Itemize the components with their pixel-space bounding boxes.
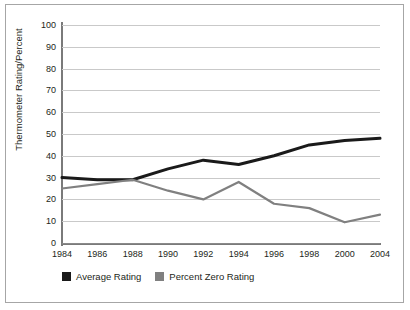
y-tick-label-50: 50 xyxy=(46,129,56,139)
legend-swatch-icon xyxy=(155,272,164,281)
gridline-0 xyxy=(62,243,380,244)
y-tick-label-0: 0 xyxy=(51,238,56,248)
legend-label: Average Rating xyxy=(76,271,141,282)
x-tick-label-1998: 1998 xyxy=(299,249,319,259)
plot-area xyxy=(62,25,380,243)
x-axis-tick-labels: 1984198619881990199219941996199820002004 xyxy=(62,249,380,265)
x-tick-label-1990: 1990 xyxy=(158,249,178,259)
series-lines xyxy=(62,25,380,243)
y-tick-label-20: 20 xyxy=(46,194,56,204)
x-tick-label-1992: 1992 xyxy=(193,249,213,259)
x-tick-label-2004: 2004 xyxy=(370,249,390,259)
y-axis-tick-labels: 0102030405060708090100 xyxy=(0,25,56,243)
y-tick-label-90: 90 xyxy=(46,42,56,52)
legend-label: Percent Zero Rating xyxy=(169,271,254,282)
x-tick-label-1996: 1996 xyxy=(264,249,284,259)
y-tick-label-80: 80 xyxy=(46,64,56,74)
y-tick-label-30: 30 xyxy=(46,173,56,183)
y-tick-label-60: 60 xyxy=(46,107,56,117)
series-line-percent-zero-rating xyxy=(62,180,380,223)
legend-item-percent-zero-rating[interactable]: Percent Zero Rating xyxy=(155,271,254,282)
chart-figure: Thermometer Rating/Percent 0102030405060… xyxy=(0,0,410,310)
series-line-average-rating xyxy=(62,138,380,179)
x-tick-label-1988: 1988 xyxy=(123,249,143,259)
y-tick-label-10: 10 xyxy=(46,216,56,226)
y-tick-label-40: 40 xyxy=(46,151,56,161)
x-tick-label-1994: 1994 xyxy=(229,249,249,259)
x-tick-label-1984: 1984 xyxy=(52,249,72,259)
chart-legend: Average RatingPercent Zero Rating xyxy=(62,271,254,282)
x-tick-label-2000: 2000 xyxy=(335,249,355,259)
y-tick-label-70: 70 xyxy=(46,85,56,95)
legend-swatch-icon xyxy=(62,272,71,281)
y-tick-label-100: 100 xyxy=(41,20,56,30)
legend-item-average-rating[interactable]: Average Rating xyxy=(62,271,141,282)
x-tick-label-1986: 1986 xyxy=(87,249,107,259)
